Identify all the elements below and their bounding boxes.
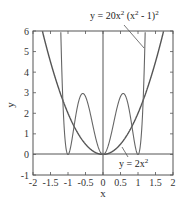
y-tick-label: 4 bbox=[24, 67, 29, 78]
y-tick-label: 6 bbox=[24, 26, 29, 37]
y-tick-label: 1 bbox=[24, 128, 29, 139]
x-tick-label: 0.5 bbox=[114, 177, 127, 188]
x-axis-label: x bbox=[100, 187, 106, 199]
x-tick-label: -1 bbox=[64, 177, 72, 188]
x-tick-label: 1.5 bbox=[149, 177, 162, 188]
chart: -2-1.5-1-0.500.511.52 -10123456 y = 20x2… bbox=[0, 0, 187, 203]
y-tick-label: 2 bbox=[24, 108, 29, 119]
annotation-parabola-leader bbox=[122, 147, 128, 157]
y-tick-label: -1 bbox=[21, 170, 29, 181]
annotation-parabola: y = 2x2 bbox=[119, 157, 149, 169]
y-tick-label: 0 bbox=[24, 149, 29, 160]
y-tick-label: 5 bbox=[24, 46, 29, 57]
annotation-sextic: y = 20x2 (x2 - 1)2 bbox=[90, 9, 159, 22]
x-tick-label: 1 bbox=[136, 177, 141, 188]
x-tick-label: -2 bbox=[29, 177, 37, 188]
y-axis-label: y bbox=[4, 102, 16, 108]
x-tick-label: -1.5 bbox=[43, 177, 59, 188]
y-tick-label: 3 bbox=[24, 87, 29, 98]
y-tick-labels: -10123456 bbox=[21, 26, 29, 181]
x-tick-label: 2 bbox=[171, 177, 176, 188]
annotation-sextic-leader bbox=[124, 25, 144, 48]
x-tick-label: -0.5 bbox=[78, 177, 94, 188]
